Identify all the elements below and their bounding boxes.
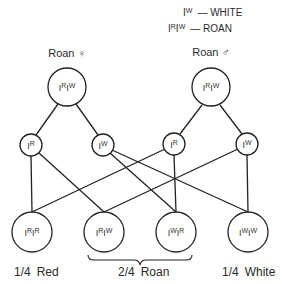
gamete-node-male-w: IW <box>236 133 258 155</box>
connection-lines <box>31 104 248 212</box>
legend-roan-genotype: IRIW— ROAN <box>168 23 232 34</box>
male-parent-label: Roan ♂ <box>192 46 230 58</box>
punnett-cross-diagram: IW— WHITE IRIW— ROAN Roan ♀ Roan ♂ IRIW … <box>0 0 282 284</box>
male-parent-node: IRIW <box>192 68 230 106</box>
ratio-red: 1/4Red <box>14 265 59 279</box>
roan-brace <box>88 255 192 265</box>
gamete-node-female-w: IW <box>92 134 114 156</box>
ratio-roan: 2/4Roan <box>118 265 169 279</box>
legend-white-allele: IW— WHITE <box>183 7 243 18</box>
offspring-node-rw: IRIW <box>84 212 124 252</box>
legend: IW— WHITE IRIW— ROAN <box>168 7 243 34</box>
ratio-white: 1/4White <box>222 265 276 279</box>
female-parent-label: Roan ♀ <box>48 47 86 59</box>
gamete-node-male-r: IR <box>163 133 185 155</box>
offspring-node-wr: IWIR <box>156 212 196 252</box>
offspring-node-ww: IWIW <box>228 212 268 252</box>
offspring-node-rr: IRIR <box>12 212 52 252</box>
female-parent-node: IRIW <box>48 68 86 106</box>
gamete-node-female-r: IR <box>20 134 42 156</box>
